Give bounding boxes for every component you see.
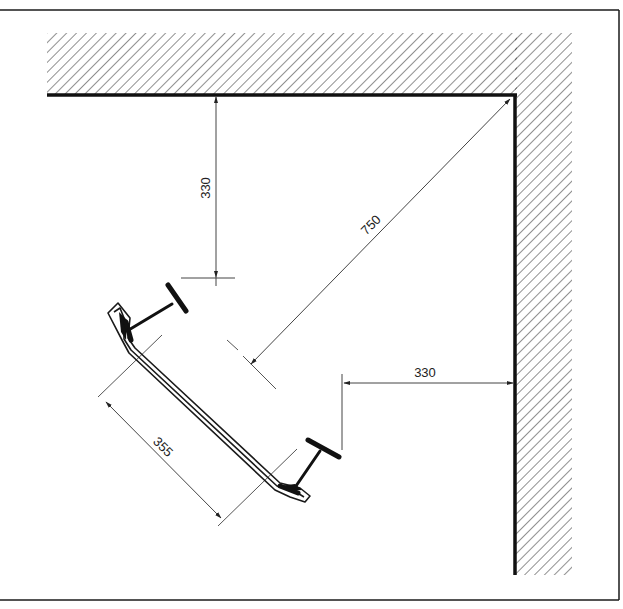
- dimension-label-panel-width: 355: [150, 434, 176, 460]
- centerline-tick: [227, 340, 276, 389]
- dimension-panel-width: 355: [98, 335, 297, 526]
- dimension-corner-diagonal: 750: [251, 99, 510, 364]
- dimension-label-top-offset: 330: [198, 177, 213, 199]
- bracket-left: [126, 285, 186, 340]
- dimension-label-side-offset: 330: [414, 365, 436, 380]
- angled-panel: [108, 303, 310, 502]
- right-wall: [515, 33, 572, 575]
- dimension-label-corner-diagonal: 750: [358, 212, 384, 238]
- top-wall: [47, 33, 517, 95]
- dimension-side-offset: 330: [342, 365, 513, 450]
- corner-panel-drawing: 330 750 330 355: [0, 0, 623, 609]
- dimension-top-offset: 330: [181, 97, 235, 286]
